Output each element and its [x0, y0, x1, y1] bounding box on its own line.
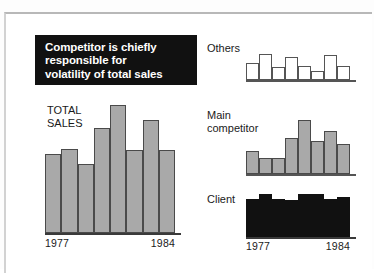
total-sales-axis-labels: 1977 1984 [45, 237, 175, 249]
axis-label-start: 1977 [246, 240, 270, 252]
bar-others-1977 [246, 63, 259, 80]
bar-total-sales-1981 [110, 105, 126, 233]
title-line-3: volatility of total sales [45, 68, 188, 81]
main-competitor-axis [246, 174, 356, 176]
axis-label-start: 1977 [45, 237, 69, 249]
bar-client-1977 [246, 199, 259, 237]
axis-label-end: 1984 [151, 237, 175, 249]
title-line-2: responsible for [45, 54, 188, 67]
bar-others-1981 [298, 66, 311, 80]
axis-label-end: 1984 [326, 240, 350, 252]
bar-total-sales-1977 [45, 154, 61, 233]
bar-main-competitor-1979 [272, 158, 285, 174]
others-axis [246, 80, 356, 82]
bar-total-sales-1980 [94, 128, 110, 233]
title-callout-box: Competitor is chiefly responsible for vo… [35, 35, 197, 85]
bar-client-1981 [298, 194, 311, 237]
client-axis [246, 237, 356, 239]
bar-others-1978 [259, 54, 272, 80]
bar-others-1984 [337, 66, 350, 80]
bar-main-competitor-1977 [246, 151, 259, 174]
bar-client-1984 [337, 197, 350, 237]
bar-total-sales-1979 [78, 164, 94, 233]
total-sales-axis [45, 233, 181, 235]
main-competitor-chart [246, 120, 356, 182]
title-line-1: Competitor is chiefly [45, 41, 188, 54]
others-chart [246, 52, 356, 92]
bar-others-1982 [311, 71, 324, 80]
bar-others-1979 [272, 67, 285, 80]
bar-main-competitor-1982 [311, 141, 324, 174]
bar-client-1980 [285, 200, 298, 237]
bar-client-1982 [311, 194, 324, 237]
bar-main-competitor-1978 [259, 158, 272, 174]
bar-client-1978 [259, 194, 272, 237]
client-chart: 1977 1984 [246, 194, 356, 252]
bar-main-competitor-1983 [324, 131, 337, 174]
bar-client-1983 [324, 199, 337, 237]
client-bars [246, 194, 350, 237]
total-sales-chart: 1977 1984 [45, 105, 181, 255]
bar-main-competitor-1984 [337, 144, 350, 174]
bar-client-1979 [272, 199, 285, 237]
bar-total-sales-1982 [126, 150, 142, 233]
client-label: Client [207, 193, 235, 206]
bar-others-1980 [285, 57, 298, 80]
bar-main-competitor-1980 [285, 138, 298, 174]
bar-main-competitor-1981 [298, 120, 311, 174]
bar-total-sales-1984 [159, 150, 175, 233]
bar-others-1983 [324, 55, 337, 80]
others-label: Others [207, 42, 240, 55]
bar-total-sales-1983 [143, 120, 159, 233]
total-sales-bars [45, 105, 175, 233]
bar-total-sales-1978 [61, 149, 77, 233]
main-competitor-bars [246, 120, 350, 174]
others-bars [246, 52, 350, 80]
client-axis-labels: 1977 1984 [246, 240, 350, 252]
